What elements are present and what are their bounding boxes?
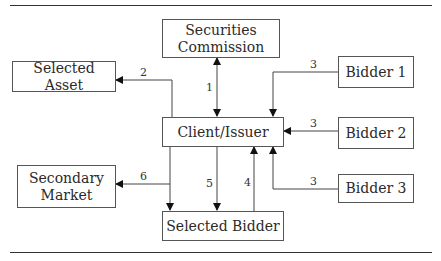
edge-label-6: 6: [140, 170, 147, 183]
securities-commission-node: Securities Commission: [162, 19, 280, 58]
node-label: Selected Bidder: [166, 218, 279, 235]
node-label: Bidder 3: [345, 180, 406, 197]
edge-label-5: 5: [206, 177, 213, 190]
edge-label-4: 4: [244, 176, 251, 189]
edge-label-2: 2: [140, 66, 147, 79]
bidder-1-node: Bidder 1: [338, 56, 414, 88]
edge-label-3-bidder2: 3: [310, 117, 317, 130]
selected-bidder-node: Selected Bidder: [162, 211, 284, 241]
node-label: Bidder 1: [345, 64, 406, 81]
edge-label-3-bidder1: 3: [310, 58, 317, 71]
node-label: Client/Issuer: [177, 124, 268, 141]
bidder-2-node: Bidder 2: [338, 117, 414, 149]
client-issuer-node: Client/Issuer: [162, 117, 284, 147]
edge-label-3-bidder3: 3: [310, 175, 317, 188]
selected-asset-node: Selected Asset: [12, 61, 116, 92]
edge-label-1: 1: [206, 81, 213, 94]
bidder-3-node: Bidder 3: [338, 174, 414, 203]
node-label: Selected Asset: [13, 60, 115, 94]
secondary-market-node: Secondary Market: [17, 165, 116, 208]
node-label: Bidder 2: [345, 125, 406, 142]
node-label: Secondary Market: [27, 170, 107, 204]
node-label: Securities Commission: [163, 22, 279, 56]
